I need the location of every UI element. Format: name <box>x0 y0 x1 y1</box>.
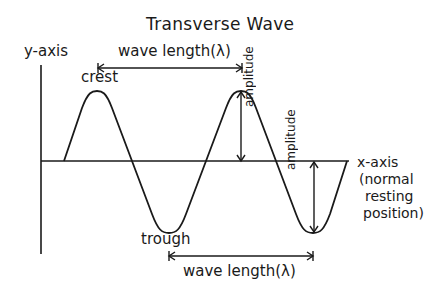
wavelength-top-label: wave length(λ) <box>118 44 231 59</box>
x-axis-label: x-axis (normal resting position) <box>357 154 424 222</box>
wavelength-top-arrow <box>98 63 242 73</box>
wavelength-bottom-arrow <box>169 251 313 261</box>
amplitude-label-crest: amplitude <box>243 46 255 107</box>
wave-curve <box>64 91 347 233</box>
diagram-title: Transverse Wave <box>146 16 294 33</box>
x-axis-label-line-2: (normal <box>357 171 424 188</box>
wavelength-bottom-label: wave length(λ) <box>183 264 296 279</box>
amplitude-label-trough: amplitude <box>285 109 297 170</box>
amplitude-arrow-trough <box>310 162 318 232</box>
y-axis-label: y-axis <box>24 44 68 59</box>
crest-label: crest <box>81 70 118 85</box>
trough-label: trough <box>141 232 190 247</box>
x-axis-label-line-4: position) <box>357 205 424 222</box>
x-axis-label-line-3: resting <box>357 188 424 205</box>
x-axis-label-line-1: x-axis <box>357 154 424 171</box>
